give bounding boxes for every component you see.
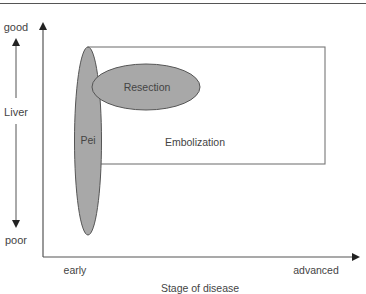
diagram-canvas: good Liver poor Pei Resection Embolizati…	[0, 0, 366, 294]
x-axis-title: Stage of disease	[161, 282, 239, 294]
x-axis-right-label: advanced	[293, 264, 339, 276]
diagram-svg: good Liver poor Pei Resection Embolizati…	[0, 0, 366, 294]
resection-label: Resection	[124, 81, 171, 93]
y-axis-bottom-label: poor	[5, 234, 27, 246]
x-axis-left-label: early	[64, 264, 88, 276]
embolization-label: Embolization	[165, 136, 225, 148]
y-axis-title: Liver	[4, 106, 28, 118]
pei-label: Pei	[80, 134, 95, 146]
y-axis-top-label: good	[4, 21, 28, 33]
